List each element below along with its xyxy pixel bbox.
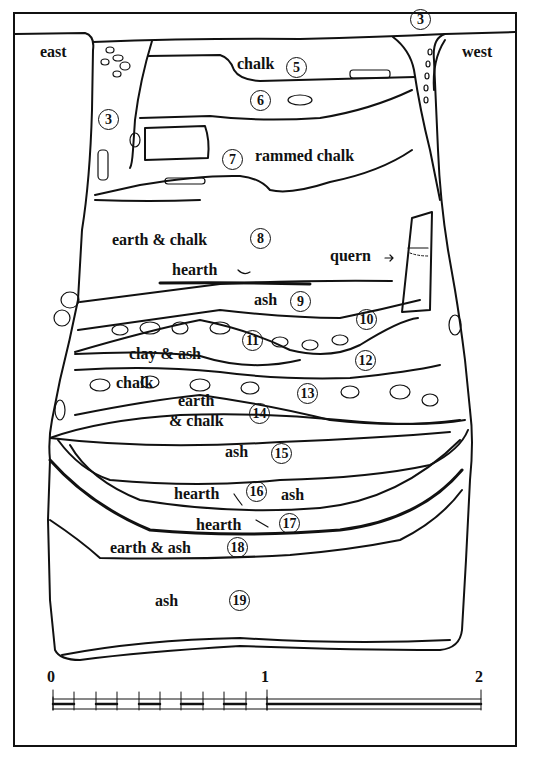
layer-number-15: 15 [271,443,292,464]
label-and-chalk-14: & chalk [169,413,224,429]
layer-number-16: 16 [246,481,267,502]
label-clay-ash-12: clay & ash [129,346,201,362]
layer-number-3-east: 3 [98,109,119,130]
layer-number-9: 9 [290,291,311,312]
layer-number-6: 6 [250,90,271,111]
layer-number-13: 13 [297,383,318,404]
label-ash-15: ash [225,444,248,460]
label-hearth-16: hearth [174,486,219,502]
label-hearth-upper: hearth [172,262,217,278]
layer-number-14: 14 [249,403,270,424]
label-ash-19: ash [155,593,178,609]
layer-number-3-west: 3 [410,9,431,30]
layer-number-10: 10 [356,309,377,330]
label-rammed-chalk-7: rammed chalk [255,148,354,164]
label-earth-ash-18: earth & ash [110,540,191,556]
layer-number-18: 18 [227,537,248,558]
quern-stone [402,212,432,312]
label-earth-14: earth [178,393,214,409]
section-drawing [0,0,534,763]
scale-label-1: 1 [261,668,269,686]
scale-label-0: 0 [47,668,55,686]
label-earth-chalk-8: earth & chalk [112,232,207,248]
label-west: west [462,44,492,60]
layer-number-7: 7 [222,149,243,170]
label-ash-16: ash [281,487,304,503]
section-outline [15,32,515,660]
layer-number-5: 5 [286,57,307,78]
layer-number-8: 8 [250,228,271,249]
layer-number-19: 19 [229,590,250,611]
layer-number-12: 12 [355,350,376,371]
label-chalk-13: chalk [116,375,153,391]
label-hearth-17: hearth [196,517,241,533]
layer-number-11: 11 [242,330,263,351]
layer-number-17: 17 [279,513,300,534]
label-ash-9: ash [254,292,277,308]
scale-label-2: 2 [475,668,483,686]
label-quern: quern [330,248,371,264]
label-chalk-5: chalk [237,56,274,72]
label-east: east [40,44,67,60]
scale-bar [53,690,481,710]
